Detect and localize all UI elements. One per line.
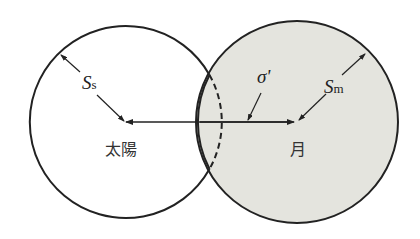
sun-radius-label: Ss — [82, 72, 97, 94]
separation-label: σ' — [257, 66, 270, 88]
moon-radius-subscript: m — [334, 81, 344, 96]
diagram-canvas — [0, 0, 420, 239]
moon-radius-symbol: S — [324, 76, 334, 97]
sun-moon-diagram: Ss Sm σ' 太陽 月 — [0, 0, 420, 239]
moon-radius-label: Sm — [324, 76, 344, 98]
sun-label: 太陽 — [105, 136, 137, 160]
sun-radius-arrow-out — [61, 55, 80, 72]
sun-radius-subscript: s — [92, 77, 97, 92]
sun-radius-symbol: S — [82, 72, 92, 93]
sun-radius-arrow-in — [97, 95, 124, 121]
moon-label: 月 — [290, 136, 306, 160]
